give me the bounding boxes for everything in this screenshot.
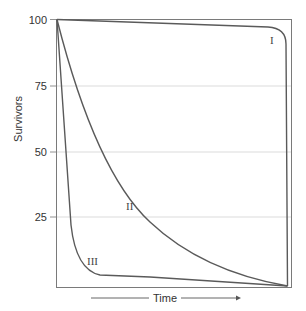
y-tick-100: 100 <box>29 14 47 26</box>
gridlines <box>56 86 292 217</box>
x-axis-label: Time <box>153 292 177 304</box>
curve-label-I: I <box>270 34 274 46</box>
y-tick-50: 50 <box>35 146 47 158</box>
curve-I <box>57 20 288 287</box>
curve-label-II: II <box>126 200 134 212</box>
curve-II <box>57 20 288 287</box>
y-ticks <box>50 20 56 218</box>
y-axis-label: Survivors <box>12 96 24 142</box>
curve-label-III: III <box>87 255 98 267</box>
curve-III <box>57 20 288 287</box>
x-axis-label-group: Time <box>91 292 241 304</box>
y-tick-75: 75 <box>35 80 47 92</box>
curves <box>57 20 288 287</box>
survivorship-chart: 100 75 50 25 Survivors I II III Time <box>0 0 306 311</box>
y-tick-25: 25 <box>35 211 47 223</box>
plot-frame <box>57 20 292 288</box>
arrow-right-icon <box>236 296 241 301</box>
